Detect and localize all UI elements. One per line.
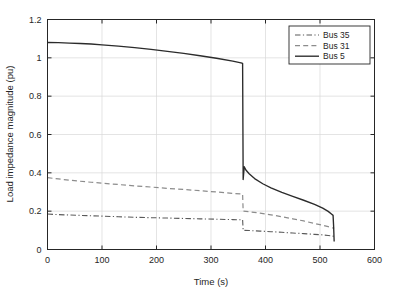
y-tick-label: 0.4 bbox=[29, 168, 42, 178]
figure-container: 0100200300400500600 00.20.40.60.811.2 Ti… bbox=[0, 0, 399, 296]
x-tick-label: 300 bbox=[203, 255, 218, 265]
x-tick-label: 500 bbox=[312, 255, 327, 265]
y-tick-label: 1.2 bbox=[29, 15, 42, 25]
x-axis-label: Time (s) bbox=[194, 276, 228, 287]
y-tick-label: 0.2 bbox=[29, 206, 42, 216]
x-tick-label: 200 bbox=[149, 255, 164, 265]
x-tick-label: 400 bbox=[258, 255, 273, 265]
y-tick-label: 0.8 bbox=[29, 91, 42, 101]
legend-label: Bus 5 bbox=[323, 51, 345, 61]
y-tick-label: 0 bbox=[36, 245, 41, 255]
legend[interactable]: Bus 35Bus 31Bus 5 bbox=[289, 26, 370, 64]
x-tick-label: 0 bbox=[45, 255, 50, 265]
x-tick-label: 600 bbox=[367, 255, 382, 265]
x-tick-label: 100 bbox=[94, 255, 109, 265]
y-axis-label: Load impedance magnitude (pu) bbox=[4, 66, 15, 203]
y-tick-label: 0.6 bbox=[29, 130, 42, 140]
legend-label: Bus 31 bbox=[323, 41, 350, 51]
chart-canvas: 0100200300400500600 00.20.40.60.811.2 Ti… bbox=[0, 0, 399, 296]
y-tick-label: 1 bbox=[36, 53, 41, 63]
legend-label: Bus 35 bbox=[323, 30, 350, 40]
